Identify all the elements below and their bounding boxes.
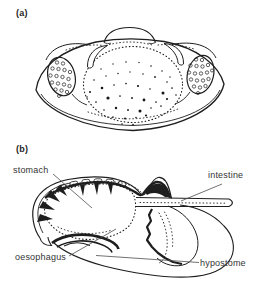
stipple-bump-base — [106, 42, 154, 46]
dome-speckles — [86, 61, 177, 125]
label-hypostome: hypostome — [200, 258, 246, 268]
figure-page: (a) (b) stomach intestine oesophagus hyp… — [0, 0, 259, 288]
stomach-inner-stipple — [58, 227, 112, 234]
right-crescent-mark — [164, 44, 184, 66]
lobe-base-curl-left — [104, 43, 111, 44]
label-oesophagus: oesophagus — [15, 252, 66, 262]
label-stomach: stomach — [13, 165, 48, 175]
lobe-base-curl-right — [149, 43, 156, 44]
left-eye — [44, 44, 108, 105]
panel-a-tag: (a) — [16, 8, 28, 18]
left-eye-lower-line — [72, 94, 87, 105]
anatomical-diagram — [0, 0, 259, 288]
panel-a-illustration — [36, 28, 224, 131]
left-crescent-mark — [87, 46, 107, 69]
leader-lines — [53, 174, 222, 263]
jagged-plate-edge — [147, 209, 182, 264]
oesophagus-curl — [52, 235, 119, 253]
leader-hypostome — [96, 256, 199, 263]
label-intestine: intestine — [208, 170, 243, 180]
right-eye — [164, 43, 218, 104]
stomach-outline — [45, 184, 136, 240]
ventral-curl — [40, 237, 52, 246]
body-outline — [36, 39, 224, 131]
right-eye-lower-line — [175, 92, 190, 104]
left-eye-facets — [49, 61, 72, 98]
panel-b-tag: (b) — [16, 144, 28, 154]
central-dome-outline — [84, 47, 183, 123]
